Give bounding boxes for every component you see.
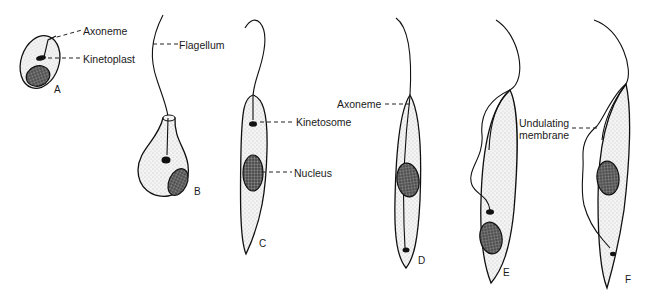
stage-label-a: A: [54, 84, 61, 95]
stage-a-amastigote: [14, 30, 82, 94]
label-undulating-membrane-2: membrane: [519, 129, 569, 141]
label-kinetoplast: Kinetoplast: [83, 53, 135, 65]
label-axoneme-a: Axoneme: [83, 25, 127, 37]
label-nucleus: Nucleus: [294, 167, 332, 179]
label-flagellum: Flagellum: [179, 39, 225, 51]
label-axoneme-d: Axoneme: [337, 98, 381, 110]
stage-f-trypomastigote: [572, 20, 630, 288]
label-kinetosome: Kinetosome: [296, 116, 351, 128]
stage-c-promastigote: [241, 20, 293, 254]
stage-label-e: E: [503, 267, 510, 278]
trypanosomatid-stages-diagram: [0, 0, 648, 298]
label-undulating-membrane-1: Undulating: [519, 117, 569, 129]
stage-label-b: B: [194, 186, 201, 197]
stage-e-epimastigote: [471, 20, 520, 283]
stage-label-c: C: [259, 238, 266, 249]
stage-d-cell: [385, 18, 421, 268]
stage-label-f: F: [625, 274, 631, 285]
stage-label-d: D: [418, 255, 425, 266]
